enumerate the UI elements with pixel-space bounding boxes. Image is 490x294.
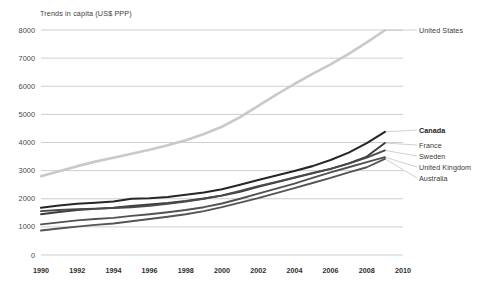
y-axis-tick-label: 0 bbox=[31, 251, 35, 260]
x-axis-tick-label: 1996 bbox=[142, 266, 158, 275]
x-axis-tick-label: 2004 bbox=[286, 266, 302, 275]
legend-leader-line bbox=[385, 159, 417, 178]
x-axis-tick-label: 2002 bbox=[250, 266, 266, 275]
y-axis-tick-label: 2000 bbox=[19, 194, 35, 203]
series-line-united-states bbox=[41, 30, 385, 176]
legend-item-sweden: Sweden bbox=[419, 152, 445, 161]
gridlines-group bbox=[41, 30, 403, 255]
line-chart-plot: 010002000300040005000600070008000 199019… bbox=[0, 0, 490, 294]
y-axis-tick-label: 8000 bbox=[19, 26, 35, 35]
legend-item-united-kingdom: United Kingdom bbox=[419, 163, 471, 172]
legend-item-canada: Canada bbox=[419, 126, 445, 135]
x-axis-tick-label: 2000 bbox=[214, 266, 230, 275]
legend-item-france: France bbox=[419, 141, 442, 150]
y-axis-tick-labels: 010002000300040005000600070008000 bbox=[19, 26, 35, 260]
y-axis-tick-label: 7000 bbox=[19, 54, 35, 63]
y-axis-tick-label: 1000 bbox=[19, 222, 35, 231]
y-axis-tick-label: 3000 bbox=[19, 166, 35, 175]
legend-leader-line bbox=[385, 143, 417, 145]
legend-leader-line bbox=[385, 157, 417, 167]
x-axis-tick-label: 1998 bbox=[178, 266, 194, 275]
x-axis-tick-label: 1990 bbox=[33, 266, 49, 275]
x-axis-tick-label: 2006 bbox=[323, 266, 339, 275]
legend-leader-line bbox=[385, 150, 417, 156]
x-axis-tick-label: 1992 bbox=[69, 266, 85, 275]
legend-item-united-states: United States bbox=[419, 26, 463, 35]
legend-leader-line bbox=[385, 130, 417, 132]
x-axis-tick-label: 2008 bbox=[359, 266, 375, 275]
chart-container: Trends in capita (US$ PPP) 0100020003000… bbox=[0, 0, 490, 294]
series-lines-group bbox=[41, 30, 385, 230]
legend-leader-lines bbox=[385, 30, 417, 178]
x-axis-tick-label: 1994 bbox=[105, 266, 121, 275]
x-axis-tick-labels: 1990199219941996199820002002200420062008… bbox=[33, 266, 411, 275]
y-axis-tick-label: 4000 bbox=[19, 138, 35, 147]
y-axis-tick-label: 5000 bbox=[19, 110, 35, 119]
legend-item-australia: Australia bbox=[419, 174, 448, 183]
y-axis-tick-label: 6000 bbox=[19, 82, 35, 91]
x-axis-tick-label: 2010 bbox=[395, 266, 411, 275]
